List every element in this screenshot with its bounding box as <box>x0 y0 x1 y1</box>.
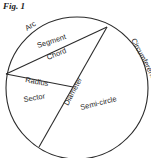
chord-label: Chord <box>45 46 67 62</box>
circle-diagram: Fig. 1 Arc Segment Chord Radius Sector D… <box>0 0 151 158</box>
figure-title: Fig. 1 <box>2 1 25 11</box>
circumference-label: Circumference <box>129 37 151 84</box>
semicircle-label: Semi-circle <box>79 94 117 112</box>
radius-label: Radius <box>25 75 50 88</box>
sector-label: Sector <box>23 91 46 104</box>
